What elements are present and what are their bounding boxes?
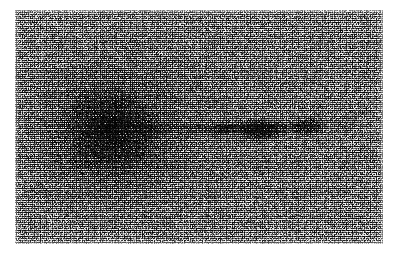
- image-canvas: [0, 0, 399, 257]
- film-grain-noise-canvas: [15, 10, 383, 244]
- photographic-plate: [15, 10, 383, 244]
